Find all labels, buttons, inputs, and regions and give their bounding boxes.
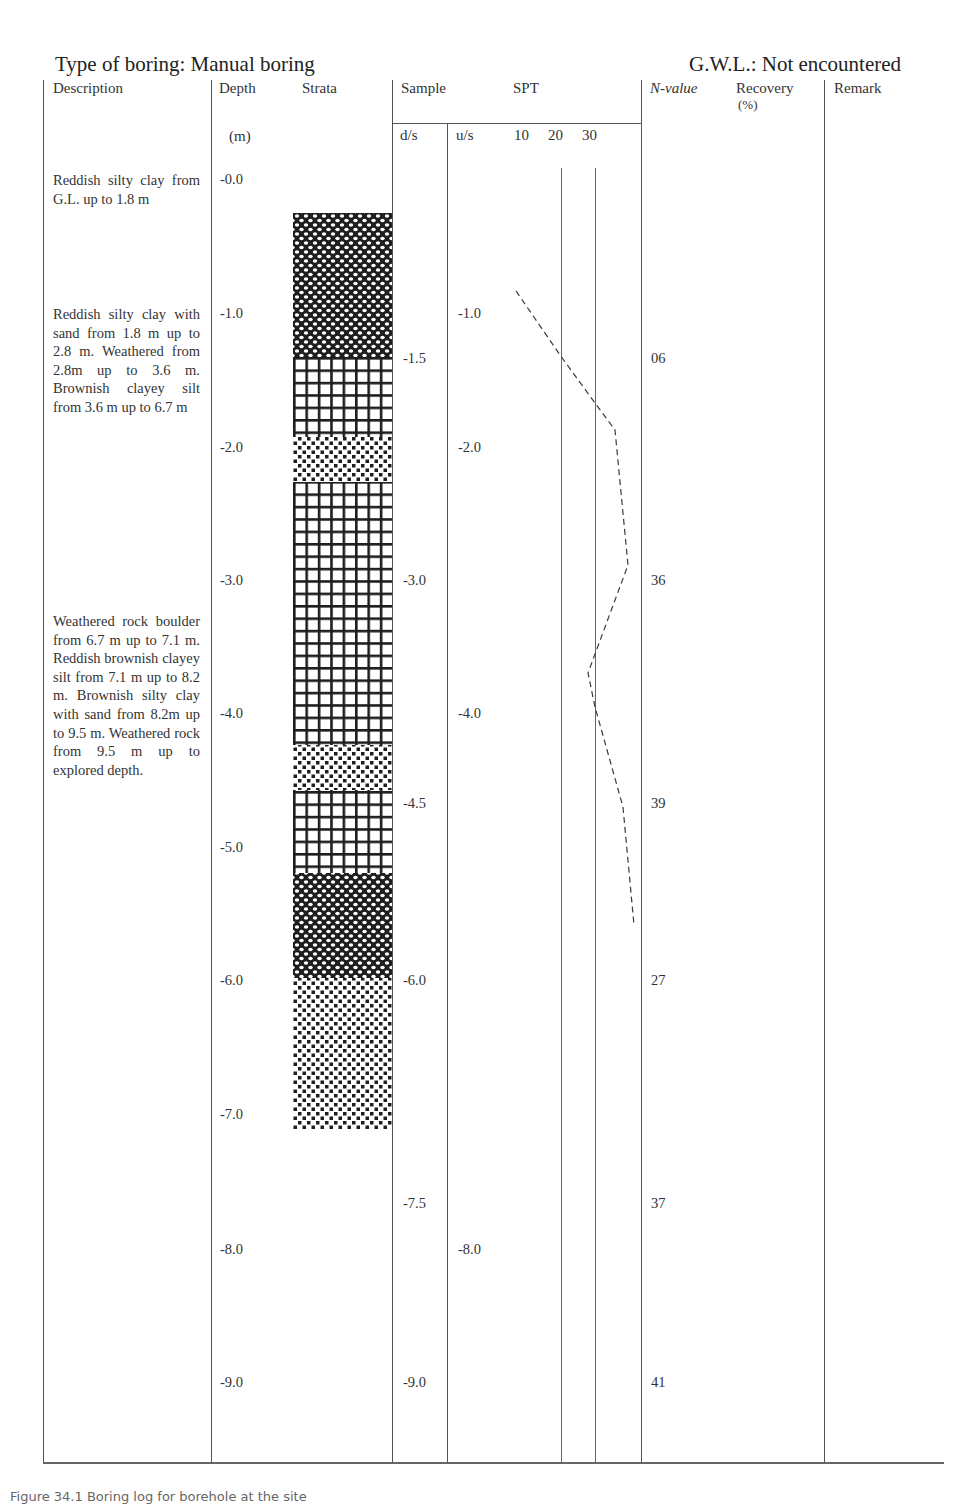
strata-column bbox=[293, 213, 392, 1130]
spt-n-value-curve bbox=[516, 291, 634, 925]
figure-caption: Figure 34.1 Boring log for borehole at t… bbox=[10, 1489, 307, 1504]
